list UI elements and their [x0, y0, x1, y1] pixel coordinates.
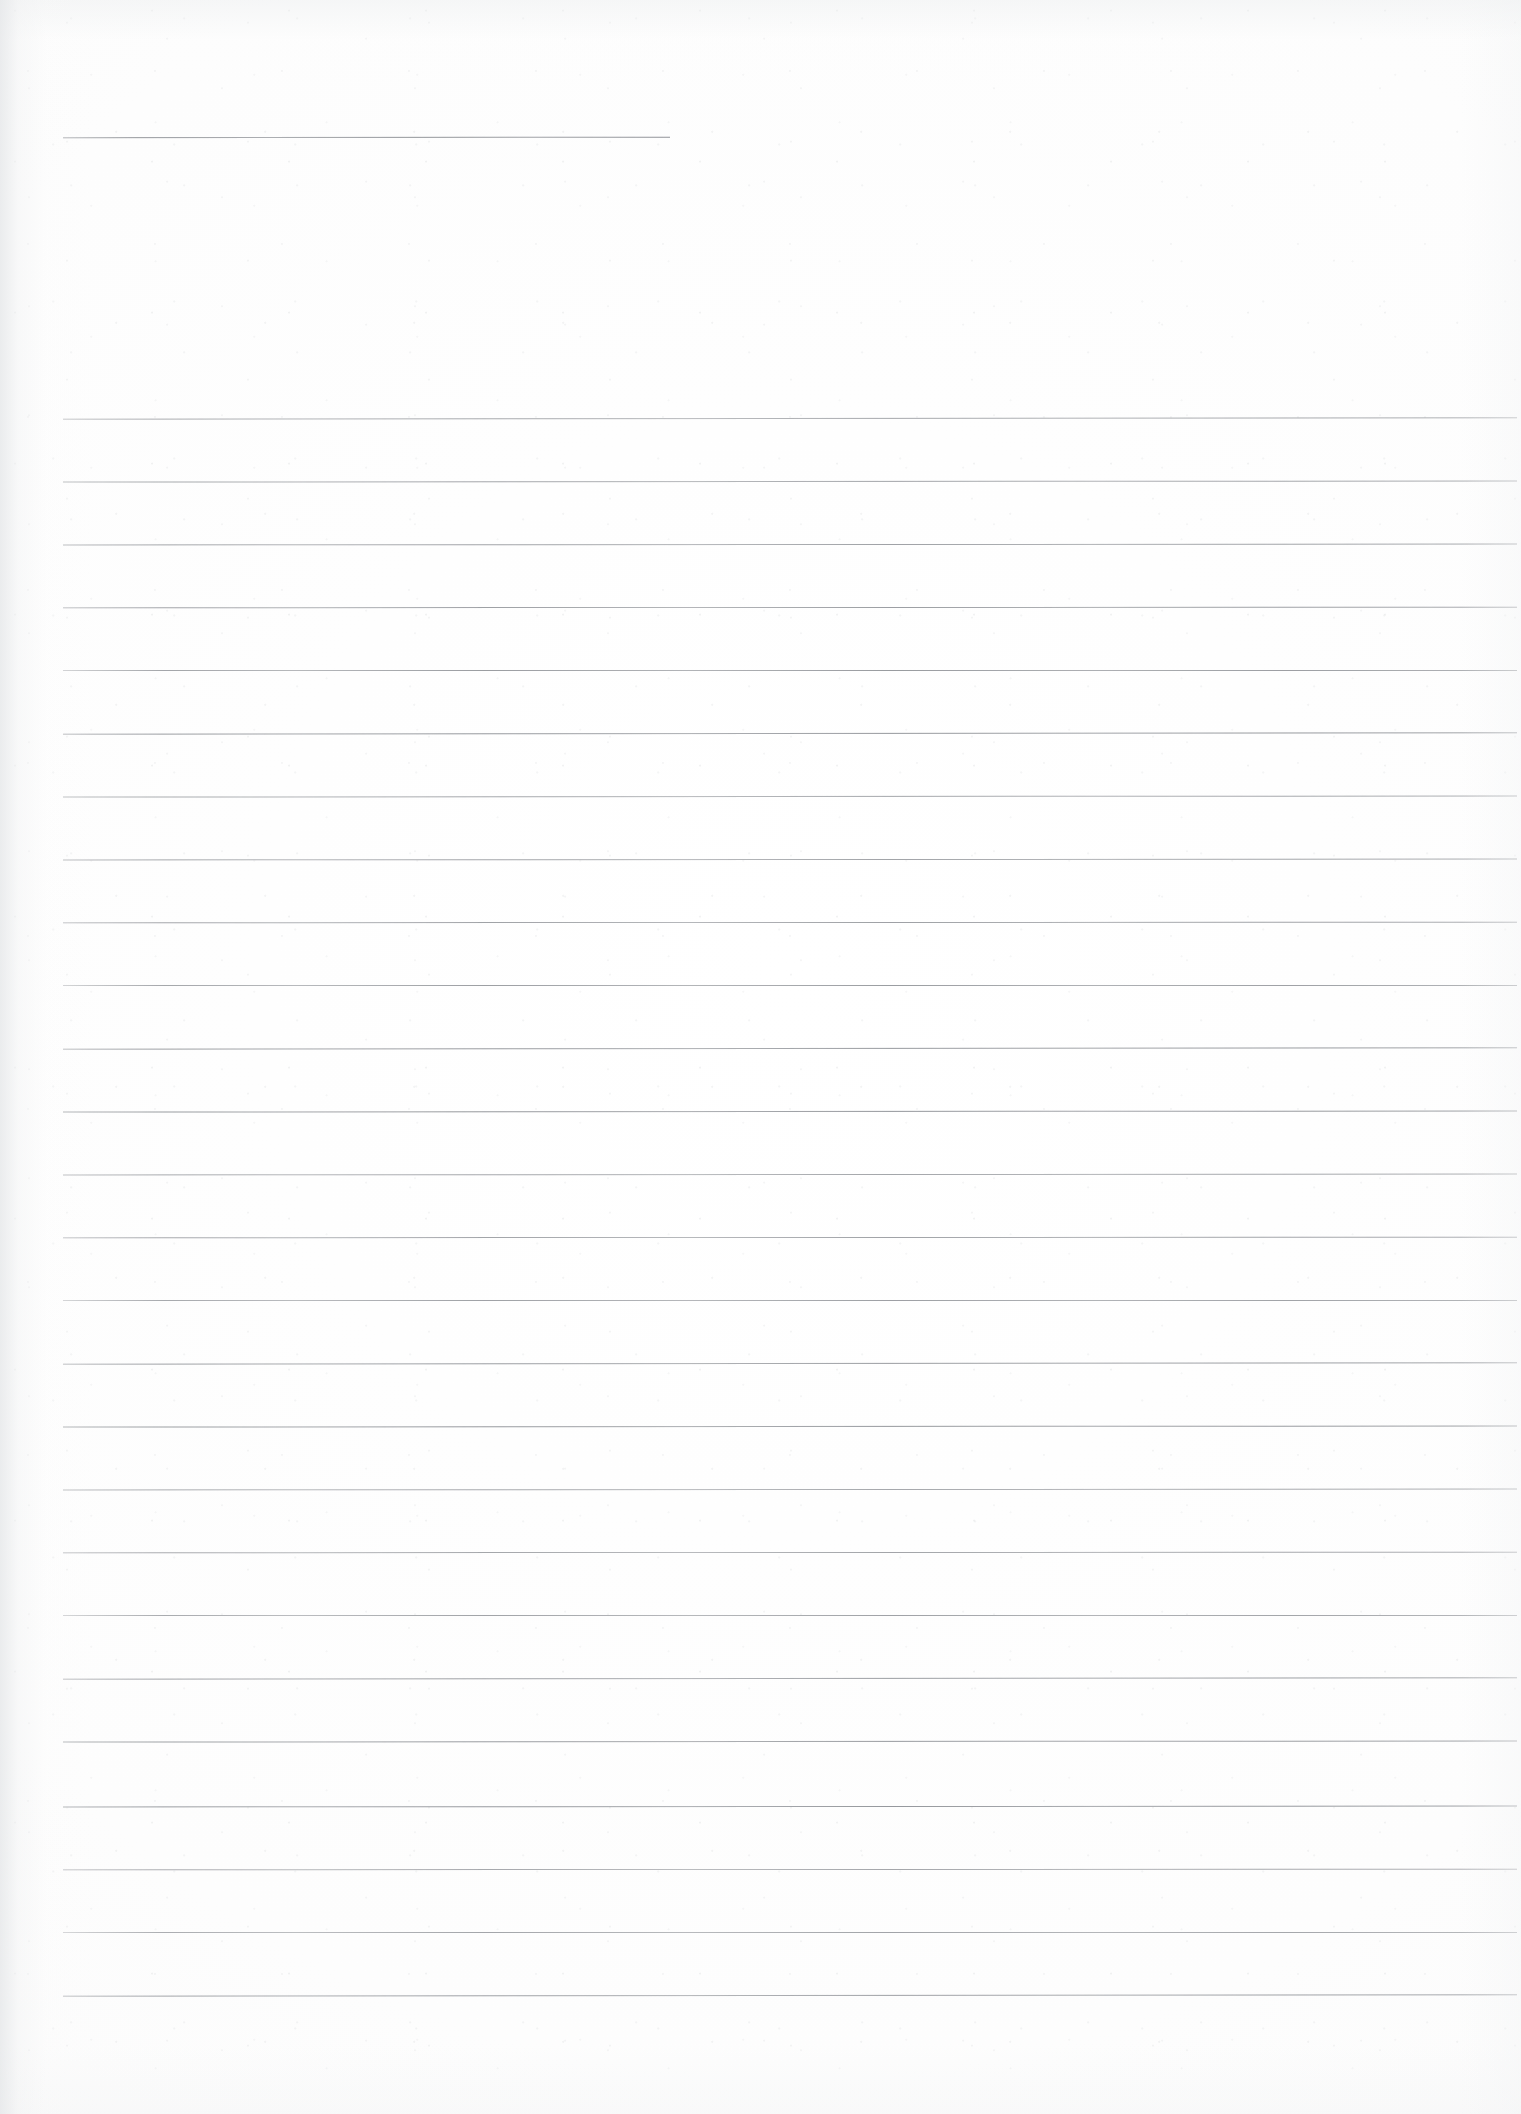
scanned-page: [0, 0, 1521, 2114]
paper-background: [0, 0, 1521, 2114]
